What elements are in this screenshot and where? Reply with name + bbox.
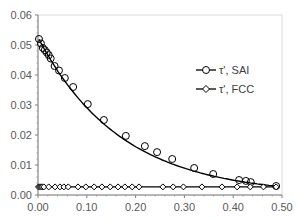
data-point-diamond	[75, 184, 81, 190]
y-tick-label: 0.05	[11, 39, 32, 51]
data-point-circle	[70, 84, 77, 91]
legend-label-sai: τ', SAI	[219, 64, 249, 76]
data-point-diamond	[122, 184, 128, 190]
y-tick-label: 0.06	[11, 9, 32, 21]
legend-item-sai: τ', SAI	[196, 64, 249, 76]
line-chart: 0.000.010.020.030.040.050.060.000.100.20…	[0, 0, 302, 220]
data-point-diamond	[136, 184, 142, 190]
data-point-circle	[84, 101, 91, 108]
data-point-diamond	[91, 184, 97, 190]
data-point-circle	[242, 177, 249, 184]
circle-marker-icon	[203, 67, 210, 74]
data-point-diamond	[99, 184, 105, 190]
series-group	[35, 36, 279, 190]
data-point-diamond	[160, 184, 166, 190]
data-point-circle	[141, 143, 148, 150]
data-point-diamond	[83, 184, 89, 190]
x-tick-label: 0.30	[174, 201, 195, 213]
data-point-diamond	[170, 184, 176, 190]
y-tick-label: 0.03	[11, 99, 32, 111]
diamond-marker-icon	[203, 86, 210, 93]
data-point-diamond	[234, 184, 240, 190]
x-tick-label: 0.00	[27, 201, 48, 213]
legend-label-fcc: τ', FCC	[219, 83, 254, 95]
x-tick-label: 0.10	[76, 201, 97, 213]
data-point-diamond	[129, 184, 135, 190]
y-tick-label: 0.01	[11, 159, 32, 171]
x-tick-label: 0.40	[222, 201, 243, 213]
data-point-diamond	[199, 184, 205, 190]
data-point-circle	[154, 149, 161, 156]
plot-area-border	[38, 15, 282, 195]
legend-item-fcc: τ', FCC	[196, 83, 254, 95]
data-point-diamond	[180, 184, 186, 190]
x-tick-label: 0.20	[125, 201, 146, 213]
data-point-diamond	[46, 184, 52, 190]
data-point-diamond	[65, 184, 71, 190]
data-point-diamond	[107, 184, 113, 190]
y-tick-label: 0.00	[11, 189, 32, 201]
data-point-circle	[100, 117, 107, 124]
data-point-circle	[169, 156, 176, 163]
y-tick-label: 0.04	[11, 69, 32, 81]
x-tick-label: 0.50	[271, 201, 292, 213]
data-point-diamond	[115, 184, 121, 190]
data-point-circle	[122, 132, 129, 139]
legend: τ', SAI τ', FCC	[196, 64, 254, 95]
data-point-diamond	[219, 184, 225, 190]
data-point-circle	[236, 177, 243, 184]
series-sai	[35, 36, 279, 190]
series-fcc	[35, 184, 279, 190]
y-tick-label: 0.02	[11, 129, 32, 141]
